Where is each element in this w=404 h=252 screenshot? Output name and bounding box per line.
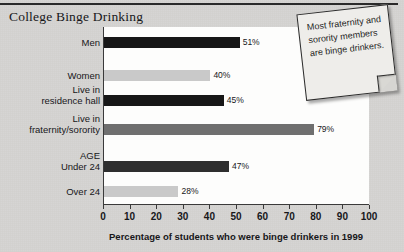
x-tick-60 [263, 205, 264, 209]
bar-value-label-4: 79% [317, 124, 334, 135]
category-label-line: Live in [1, 114, 100, 125]
x-tick-90 [342, 205, 343, 209]
category-label-2: Women [1, 71, 100, 82]
callout-sticky-note: Most fraternity and sorority members are… [296, 4, 397, 101]
bar-5 [104, 161, 229, 172]
x-tick-label-70: 70 [284, 211, 295, 222]
x-tick-label-10: 10 [124, 211, 135, 222]
sticky-note-text: Most fraternity and sorority members are… [306, 13, 386, 60]
category-label-line: Women [1, 71, 100, 82]
category-label-4: Live infraternity/sorority [1, 114, 100, 135]
bar-6 [104, 186, 178, 197]
x-tick-30 [183, 205, 184, 209]
x-tick-80 [316, 205, 317, 209]
x-tick-50 [236, 205, 237, 209]
category-label-3: Live inresidence hall [1, 85, 100, 106]
y-axis-line [103, 27, 104, 204]
bar-value-label-3: 45% [227, 95, 244, 106]
category-label-6: Over 24 [1, 187, 100, 198]
category-label-line: residence hall [1, 96, 100, 107]
category-label-line: Men [1, 38, 100, 49]
x-tick-label-0: 0 [100, 211, 106, 222]
category-label-group: MenWomenLive inresidence hallLive infrat… [0, 0, 100, 252]
x-axis-title: Percentage of students who were binge dr… [103, 231, 369, 242]
x-tick-label-100: 100 [361, 211, 378, 222]
category-label-line: fraternity/sorority [1, 125, 100, 136]
x-tick-0 [103, 205, 104, 209]
bar-value-label-1: 51% [243, 37, 260, 48]
bar-1 [104, 37, 240, 48]
bar-4 [104, 124, 314, 135]
x-tick-label-90: 90 [337, 211, 348, 222]
x-tick-label-20: 20 [151, 211, 162, 222]
x-tick-100 [369, 205, 370, 209]
x-tick-label-50: 50 [230, 211, 241, 222]
bar-value-label-2: 40% [213, 70, 230, 81]
x-tick-label-30: 30 [177, 211, 188, 222]
x-tick-20 [156, 205, 157, 209]
x-tick-10 [130, 205, 131, 209]
category-label-1: Men [1, 38, 100, 49]
x-tick-70 [289, 205, 290, 209]
category-label-line: Live in [1, 85, 100, 96]
x-tick-label-80: 80 [310, 211, 321, 222]
x-tick-label-60: 60 [257, 211, 268, 222]
bar-value-label-6: 28% [181, 186, 198, 197]
category-label-line: Over 24 [1, 187, 100, 198]
x-tick-40 [209, 205, 210, 209]
bar-value-label-5: 47% [232, 161, 249, 172]
bar-3 [104, 95, 224, 106]
sticky-note-curl-cut [378, 75, 398, 93]
x-tick-label-40: 40 [204, 211, 215, 222]
category-label-line: Under 24 [1, 162, 100, 173]
bar-2 [104, 70, 210, 81]
category-label-5: AGEUnder 24 [1, 151, 100, 172]
sticky-note-body: Most fraternity and sorority members are… [296, 4, 397, 101]
category-label-line: AGE [1, 151, 100, 162]
